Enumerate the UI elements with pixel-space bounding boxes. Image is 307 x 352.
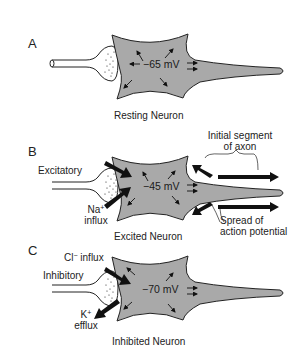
caption-inhibited-neuron: Inhibited Neuron: [112, 336, 185, 347]
membrane-potential-c: −70 mV: [142, 283, 178, 295]
caption-excited-neuron: Excited Neuron: [114, 231, 182, 242]
membrane-potential-b: −45 mV: [143, 180, 179, 192]
neuron-diagram: [0, 0, 307, 352]
label-cl-influx: Cl− influx: [64, 252, 104, 263]
caption-resting-neuron: Resting Neuron: [114, 110, 183, 121]
label-inhibitory: Inhibitory: [43, 270, 84, 281]
label-excitatory: Excitatory: [38, 165, 82, 176]
label-initial-segment: Initial segment of axon: [205, 130, 275, 152]
influx-text: influx: [84, 215, 107, 226]
soma-a: [112, 34, 283, 99]
ion-na: Na: [88, 204, 101, 215]
label-k-efflux: K+ efflux: [72, 309, 100, 331]
label-na-influx: Na+ influx: [84, 204, 108, 226]
label-spread-of-action-potential: Spread of action potential: [220, 215, 287, 237]
panel-label-b: B: [28, 144, 37, 159]
presynaptic-terminal-a: [52, 46, 118, 81]
axon-segment-brace: [205, 150, 258, 170]
panel-label-a: A: [28, 36, 37, 51]
panel-label-c: C: [28, 243, 37, 258]
membrane-potential-a: −65 mV: [143, 58, 179, 70]
soma-c: [112, 256, 283, 321]
